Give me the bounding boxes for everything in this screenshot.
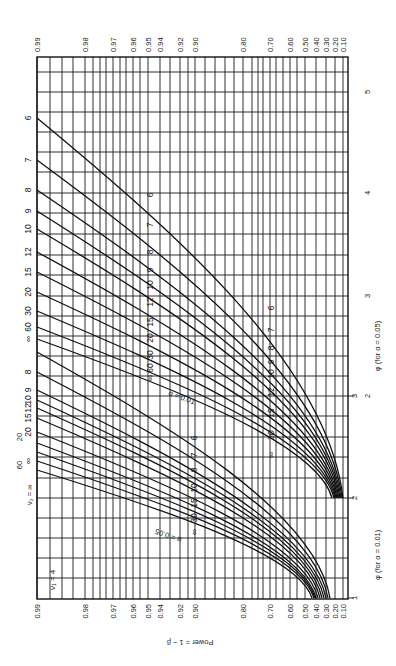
nu1-label: ν₁ = 4 — [48, 569, 57, 590]
curve-tag-alpha05-mid: 8 — [189, 467, 199, 472]
power-tick-labels-top: 0.990.980.970.960.950.940.920.900.800.70… — [33, 37, 348, 52]
curve-tag-alpha05-mid: 10 — [189, 483, 199, 493]
curve-tag-alpha01-right: 9 — [266, 359, 276, 364]
power-tick-label-top: 0.98 — [81, 37, 90, 52]
curve-nu2-7 — [37, 160, 342, 498]
curve-nu2-12 — [37, 418, 320, 598]
curve-tag-alpha01-left: 6 — [23, 115, 33, 120]
curves-alpha-005 — [37, 352, 330, 598]
curve-tag-alpha01-mid: 12 — [145, 297, 155, 307]
curve-tag-alpha01-left: 30 — [23, 306, 33, 316]
curve-tag-alpha01-mid: 15 — [145, 317, 155, 327]
power-tick-label-top: 0.30 — [322, 37, 331, 52]
power-tick-label-bottom: 0.96 — [129, 604, 138, 619]
power-tick-label-bottom: 0.80 — [239, 604, 248, 619]
power-tick-label-top: 0.10 — [339, 37, 348, 52]
curve-tag-alpha01-left: 7 — [23, 157, 33, 162]
curve-nu2-15 — [37, 272, 337, 498]
curve-tag-alpha01-mid: 6 — [145, 192, 155, 197]
curve-nu2-9 — [37, 400, 324, 598]
curve-tag-alpha01-mid: 60 — [145, 363, 155, 373]
curve-tag-alpha01-mid: ∞ — [145, 375, 155, 381]
curve-tag-alpha05-mid: 15 — [189, 498, 199, 508]
curve-tag-alpha05-left: ∞ — [23, 458, 33, 464]
power-tick-label-bottom: 0.99 — [33, 604, 42, 619]
power-tick-label-top: 0.50 — [301, 37, 310, 52]
curve-tag-alpha01-right: 30 — [266, 430, 276, 440]
power-tick-label-bottom: 0.97 — [109, 604, 118, 619]
curve-tag-alpha01-mid: 7 — [145, 222, 155, 227]
curve-nu2-8 — [37, 190, 341, 498]
curve-tag-alpha01-left: 20 — [23, 287, 33, 297]
curve-tag-alpha01-left: ∞ — [23, 336, 33, 342]
power-tick-label-top: 0.70 — [266, 37, 275, 52]
phi-axis-title-alpha01: φ (for α = 0.01) — [373, 529, 382, 580]
phi-tick-alpha01: 3 — [350, 394, 359, 398]
curve-tag-alpha01-left: 12 — [23, 247, 33, 257]
curve-tag-alpha01-right: 6 — [266, 305, 276, 310]
curve-tag-alpha01-left: 60 — [23, 322, 33, 332]
power-chart: 0.990.980.970.960.950.940.920.900.800.70… — [0, 0, 396, 666]
curve-tag-alpha05-left: 9 — [23, 387, 33, 392]
curve-nu2-inf — [37, 339, 332, 498]
power-tick-label-bottom: 0.40 — [312, 604, 321, 619]
alpha05-label: α = 0.05 — [154, 527, 183, 545]
curve-tag-alpha05-mid: 6 — [189, 435, 199, 440]
power-tick-label-bottom: 0.92 — [176, 604, 185, 619]
curve-tag-alpha01-mid: 9 — [145, 267, 155, 272]
curve-nu2-6 — [37, 352, 330, 598]
curve-tag-alpha01-mid: 8 — [145, 249, 155, 254]
curve-tag-alpha05-mid: 7 — [189, 452, 199, 457]
curve-tag-alpha01-left: 10 — [23, 224, 33, 234]
phi-axis-title-alpha05: φ (for α = 0.05) — [373, 320, 382, 371]
power-tick-label-bottom: 0.70 — [266, 604, 275, 619]
curve-tag-alpha01-right: 10 — [266, 369, 276, 379]
curve-tag-alpha01-left: 15 — [23, 267, 33, 277]
power-tick-label-bottom: 0.94 — [156, 604, 165, 619]
power-tick-label-top: 0.95 — [144, 37, 153, 52]
curve-tag-alpha01-right: 7 — [266, 327, 276, 332]
curve-tag-alpha05-left: 12 — [23, 403, 33, 413]
curve-tag-alpha05-mid: ∞ — [189, 529, 199, 535]
curve-tag-alpha01-mid: 10 — [145, 280, 155, 290]
phi-tick-alpha05: 4 — [363, 191, 372, 195]
phi-tick-alpha05: 2 — [363, 394, 372, 398]
curve-tag-alpha01-right: ∞ — [266, 452, 276, 458]
power-tick-label-top: 0.94 — [156, 37, 165, 52]
curve-tag-alpha05-mid: 30 — [189, 513, 199, 523]
power-tick-label-top: 0.40 — [312, 37, 321, 52]
curve-tag-alpha01-right: 15 — [266, 408, 276, 418]
power-axis-title: Power = 1 − β — [166, 638, 214, 647]
power-tick-label-top: 0.96 — [129, 37, 138, 52]
curve-tag-alpha01-right: 12 — [266, 387, 276, 397]
power-tick-label-top: 0.90 — [191, 37, 200, 52]
curve-tag-alpha05-left: 8 — [23, 369, 33, 374]
curve-tag-alpha01-left: 8 — [23, 187, 33, 192]
curve-tag-alpha05-left: 20 — [23, 427, 33, 437]
power-tick-label-bottom: 0.30 — [322, 604, 331, 619]
phi-tick-alpha05: 5 — [363, 90, 372, 94]
power-tick-labels-bottom: 0.990.980.970.960.950.940.920.900.800.70… — [33, 604, 348, 619]
curve-tag-alpha05-left: 15 — [23, 413, 33, 423]
nu2-infinity-label: ν₂ = ∞ — [25, 484, 34, 505]
phi-tick-alpha05: 3 — [363, 294, 372, 298]
power-tick-label-bottom: 0.90 — [191, 604, 200, 619]
power-tick-label-top: 0.92 — [176, 37, 185, 52]
nu2-60-label: 60 — [15, 461, 24, 469]
nu2-20-label: 20 — [15, 433, 24, 441]
power-tick-label-top: 0.60 — [286, 37, 295, 52]
power-tick-label-bottom: 0.50 — [301, 604, 310, 619]
curve-tag-alpha01-mid: 30 — [145, 350, 155, 360]
power-tick-label-bottom: 0.60 — [286, 604, 295, 619]
power-tick-label-top: 0.97 — [109, 37, 118, 52]
power-tick-label-bottom: 0.98 — [81, 604, 90, 619]
phi-tick-labels: 5432321 — [348, 90, 372, 600]
curve-tag-alpha01-mid: 20 — [145, 333, 155, 343]
power-tick-label-top: 0.80 — [239, 37, 248, 52]
power-tick-label-top: 0.99 — [33, 37, 42, 52]
curve-tag-alpha01-left: 9 — [23, 208, 33, 213]
power-tick-label-bottom: 0.95 — [144, 604, 153, 619]
curve-tag-alpha01-right: 8 — [266, 345, 276, 350]
phi-tick-alpha01: 1 — [350, 596, 359, 600]
power-tick-label-bottom: 0.10 — [339, 604, 348, 619]
